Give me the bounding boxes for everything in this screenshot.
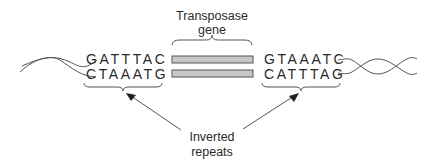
transposase-gene-bar-bottom [172, 70, 253, 77]
transposase-gene-brace [172, 35, 252, 45]
inverted-repeats-label-line1: Inverted [189, 130, 234, 144]
left-repeat-bottom-strand: CTAAATG [86, 66, 168, 82]
right-repeat-brace [262, 83, 340, 91]
left-arrow-line [131, 96, 181, 130]
left-arrow-head [126, 93, 136, 101]
right-repeat-bottom-strand: CATTTAG [264, 66, 345, 82]
left-repeat-brace [84, 83, 162, 91]
transposase-gene-label-line2: gene [198, 23, 226, 37]
right-arrow-head [289, 93, 299, 102]
transposon-diagram: Transposase gene GATTTAC CTAAATG GTAAATC… [0, 0, 424, 168]
right-dna-helix-strand-2 [338, 59, 417, 74]
left-dna-helix-strand-2 [22, 58, 96, 77]
right-arrow-line [243, 96, 294, 129]
transposase-gene-label-line1: Transposase [176, 9, 248, 23]
left-repeat-top-strand: GATTTAC [86, 51, 167, 67]
right-repeat-top-strand: GTAAATC [264, 51, 346, 67]
transposase-gene-bar-top [172, 56, 253, 63]
inverted-repeats-label-line2: repeats [191, 145, 233, 159]
